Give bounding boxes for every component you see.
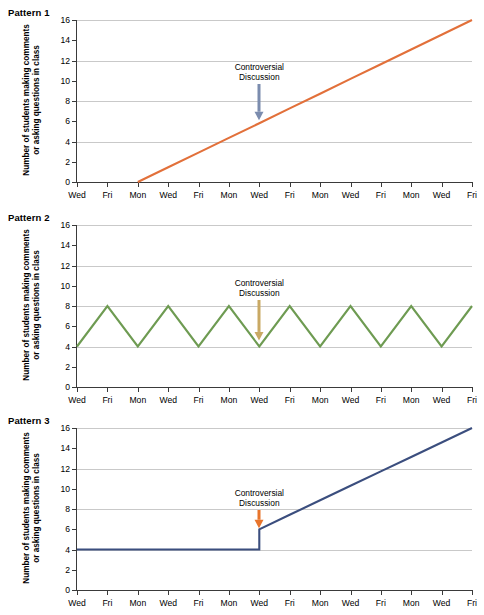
- y-axis-label-wrap: Number of students making commentsor ask…: [0, 408, 34, 608]
- y-axis-tick-label: 12: [60, 57, 70, 66]
- x-axis-tick-label: Mon: [221, 395, 238, 405]
- y-axis-tick-label: 12: [60, 465, 70, 474]
- x-axis-tick: [107, 387, 108, 392]
- x-axis-tick-label: Wed: [433, 395, 451, 405]
- x-axis-tick: [381, 387, 382, 392]
- x-axis-tick: [442, 182, 443, 187]
- y-axis-tick-label: 4: [65, 546, 70, 555]
- data-series-line: [77, 20, 472, 182]
- x-axis-tick-label: Wed: [68, 395, 86, 405]
- y-axis-tick-label: 0: [65, 178, 70, 187]
- x-axis-tick-label: Fri: [193, 190, 203, 200]
- x-axis-tick-label: Mon: [129, 395, 146, 405]
- annotation-controversial-discussion: ControversialDiscussion: [235, 488, 284, 508]
- plot-area: 0246810121416WedFriMonWedFriMonWedFriMon…: [77, 428, 472, 590]
- x-axis-tick: [77, 590, 78, 595]
- x-axis-tick-label: Fri: [193, 395, 203, 405]
- x-axis-tick: [229, 387, 230, 392]
- y-axis-label: Number of students making commentsor ask…: [22, 215, 41, 395]
- x-axis-tick: [107, 590, 108, 595]
- annotation-controversial-discussion: ControversialDiscussion: [235, 278, 284, 298]
- y-axis-tick-label: 0: [65, 586, 70, 595]
- y-axis-tick-label: 2: [65, 566, 70, 575]
- x-axis-tick: [229, 182, 230, 187]
- y-axis-tick-label: 4: [65, 138, 70, 147]
- annotation-line-2: Discussion: [235, 72, 284, 82]
- x-axis-tick-label: Fri: [193, 598, 203, 608]
- x-axis-tick: [290, 182, 291, 187]
- x-axis-tick: [138, 590, 139, 595]
- y-axis-tick-label: 8: [65, 505, 70, 514]
- x-axis-tick-label: Mon: [312, 598, 329, 608]
- x-axis-line: [76, 387, 472, 388]
- y-axis-label-wrap: Number of students making commentsor ask…: [0, 0, 34, 200]
- y-axis-tick-label: 14: [60, 241, 70, 250]
- x-axis-tick-label: Wed: [68, 190, 86, 200]
- x-axis-line: [76, 182, 472, 183]
- annotation-arrow-icon: [252, 510, 266, 528]
- x-axis-tick-label: Mon: [221, 598, 238, 608]
- x-axis-tick-label: Fri: [376, 190, 386, 200]
- x-axis-tick: [351, 387, 352, 392]
- x-axis-tick: [259, 590, 260, 595]
- x-axis-tick-label: Mon: [403, 598, 420, 608]
- x-axis-line: [76, 590, 472, 591]
- x-axis-tick-label: Fri: [285, 598, 295, 608]
- x-axis-tick: [472, 387, 473, 392]
- data-series-line: [77, 428, 472, 590]
- annotation-line-1: Controversial: [235, 62, 284, 72]
- x-axis-tick-label: Fri: [376, 395, 386, 405]
- y-axis-tick-label: 16: [60, 424, 70, 433]
- y-axis-tick-label: 16: [60, 221, 70, 230]
- x-axis-tick-label: Fri: [285, 395, 295, 405]
- y-axis-tick-label: 10: [60, 485, 70, 494]
- y-axis-tick-label: 2: [65, 158, 70, 167]
- y-axis-label-line-2: or asking questions in class: [32, 215, 42, 395]
- x-axis-tick: [351, 182, 352, 187]
- y-axis-tick-label: 8: [65, 302, 70, 311]
- x-axis-tick-label: Wed: [342, 598, 360, 608]
- x-axis-tick-label: Wed: [251, 598, 269, 608]
- x-axis-tick-label: Mon: [312, 395, 329, 405]
- x-axis-tick-label: Wed: [68, 598, 86, 608]
- y-axis-tick-label: 4: [65, 343, 70, 352]
- y-axis-label-line-1: Number of students making comments: [22, 418, 32, 598]
- x-axis-tick: [199, 182, 200, 187]
- x-axis-tick-label: Fri: [102, 395, 112, 405]
- y-axis-tick-label: 12: [60, 262, 70, 271]
- x-axis-tick-label: Fri: [285, 190, 295, 200]
- annotation-arrow-icon: [252, 84, 266, 120]
- x-axis-tick: [411, 590, 412, 595]
- x-axis-tick-label: Fri: [467, 598, 477, 608]
- y-axis-tick-label: 2: [65, 363, 70, 372]
- x-axis-tick-label: Fri: [376, 598, 386, 608]
- x-axis-tick-label: Fri: [102, 598, 112, 608]
- x-axis-tick-label: Mon: [312, 190, 329, 200]
- x-axis-tick: [107, 182, 108, 187]
- x-axis-tick: [442, 387, 443, 392]
- x-axis-tick-label: Fri: [467, 395, 477, 405]
- x-axis-tick-label: Fri: [467, 190, 477, 200]
- y-axis-label: Number of students making commentsor ask…: [22, 418, 41, 598]
- x-axis-tick: [472, 182, 473, 187]
- y-axis-tick-label: 10: [60, 77, 70, 86]
- y-axis-tick-label: 10: [60, 282, 70, 291]
- x-axis-tick: [381, 182, 382, 187]
- annotation-line-2: Discussion: [235, 288, 284, 298]
- plot-area: 0246810121416WedFriMonWedFriMonWedFriMon…: [77, 225, 472, 387]
- x-axis-tick-label: Wed: [159, 190, 177, 200]
- x-axis-tick: [77, 182, 78, 187]
- y-axis-tick-label: 6: [65, 322, 70, 331]
- x-axis-tick-label: Wed: [159, 598, 177, 608]
- x-axis-tick: [168, 387, 169, 392]
- x-axis-tick-label: Wed: [251, 395, 269, 405]
- x-axis-tick: [199, 387, 200, 392]
- x-axis-tick: [320, 590, 321, 595]
- chart-panel-pattern-3: Pattern 3Number of students making comme…: [0, 408, 484, 608]
- x-axis-tick: [138, 387, 139, 392]
- y-axis-tick-label: 14: [60, 36, 70, 45]
- x-axis-tick: [259, 182, 260, 187]
- y-axis-tick-label: 8: [65, 97, 70, 106]
- x-axis-tick: [351, 590, 352, 595]
- x-axis-tick: [77, 387, 78, 392]
